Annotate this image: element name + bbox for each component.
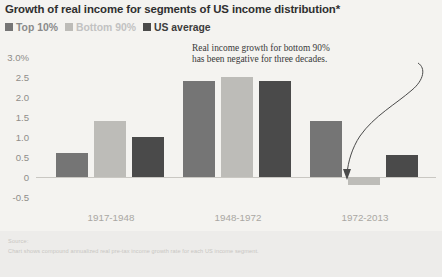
- legend-item-us-average[interactable]: US average: [143, 22, 211, 33]
- bar-top10[interactable]: [56, 153, 88, 177]
- y-tick-label: -0.5: [0, 192, 29, 203]
- legend-item-bottom90[interactable]: Bottom 90%: [65, 22, 136, 33]
- bar-bottom90[interactable]: [221, 77, 253, 177]
- chart-title: Growth of real income for segments of US…: [5, 3, 435, 16]
- bar-group: 1948-1972: [183, 46, 293, 208]
- y-tick-label: 0: [0, 172, 29, 183]
- x-tick-label-1948-1972: 1948-1972: [183, 212, 293, 223]
- bar-us-average[interactable]: [386, 155, 418, 177]
- chart-footer: Source: Chart shows compound annualized …: [0, 231, 442, 277]
- chart-annotation: Real income growth for bottom 90% has be…: [192, 43, 402, 65]
- y-tick-label: 1.0: [0, 132, 29, 143]
- x-tick-label-1972-2013: 1972-2013: [310, 212, 420, 223]
- plot-area: 3.0% 2.5 2.0 1.5 1.0 0.5 0 -0.5 1917-194…: [36, 46, 436, 208]
- annotation-line-2: has been negative for three decades.: [192, 54, 402, 65]
- footer-note: Chart shows compound annualized real pre…: [8, 248, 436, 255]
- legend-label-top10: Top 10%: [16, 22, 58, 33]
- bar-top10[interactable]: [310, 121, 342, 177]
- bar-group: 1972-2013: [310, 46, 420, 208]
- legend-item-top10[interactable]: Top 10%: [5, 22, 58, 33]
- y-tick-label: 0.5: [0, 152, 29, 163]
- y-tick-label: 2.5: [0, 72, 29, 83]
- chart-card: Growth of real income for segments of US…: [0, 0, 442, 277]
- x-tick-label-1917-1948: 1917-1948: [56, 212, 166, 223]
- legend-label-us-average: US average: [154, 22, 211, 33]
- bar-bottom90[interactable]: [348, 177, 380, 185]
- bar-us-average[interactable]: [132, 137, 164, 177]
- y-tick-label: 2.0: [0, 92, 29, 103]
- bar-top10[interactable]: [183, 81, 215, 177]
- bar-group: 1917-1948: [56, 46, 166, 208]
- y-tick-label: 1.5: [0, 112, 29, 123]
- annotation-line-1: Real income growth for bottom 90%: [192, 43, 402, 54]
- legend-label-bottom90: Bottom 90%: [76, 22, 136, 33]
- bar-bottom90[interactable]: [94, 121, 126, 177]
- footer-source-label: Source:: [8, 238, 29, 244]
- legend-swatch-bottom90: [65, 23, 73, 31]
- legend-swatch-top10: [5, 23, 13, 31]
- legend-swatch-us-average: [143, 23, 151, 31]
- y-tick-label: 3.0%: [0, 52, 29, 63]
- chart-legend: Top 10% Bottom 90% US average: [5, 20, 211, 34]
- bar-us-average[interactable]: [259, 81, 291, 177]
